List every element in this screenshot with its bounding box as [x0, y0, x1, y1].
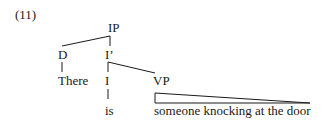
node-d: D: [58, 48, 67, 61]
leaf-is: is: [105, 104, 114, 117]
leaf-there: There: [58, 74, 88, 87]
branch-ibar-vp: [108, 62, 155, 73]
leaf-vp-phrase: someone knocking at the door: [154, 104, 311, 117]
vp-triangle: [155, 93, 310, 103]
branch-ip-d: [62, 36, 110, 46]
node-vp: VP: [153, 74, 170, 87]
node-i: I: [105, 74, 109, 87]
node-ip: IP: [108, 21, 120, 34]
node-ibar: I’: [105, 48, 114, 61]
